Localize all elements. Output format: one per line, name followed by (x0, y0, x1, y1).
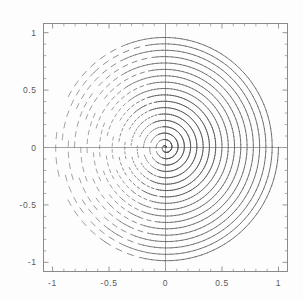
spiral-segment (153, 76, 157, 77)
spiral-segment (153, 70, 157, 71)
spiral-segment (140, 135, 141, 136)
spiral-segment (155, 160, 156, 161)
spiral-segment (272, 153, 273, 159)
spiral-segment (146, 137, 147, 138)
spiral-segment (153, 253, 159, 254)
x-tick-label: 0.5 (215, 278, 229, 288)
x-tick-label: -0.5 (100, 278, 117, 288)
spiral-segment (125, 156, 126, 158)
spiral-segment (175, 215, 179, 216)
spiral-segment (155, 247, 161, 248)
figure-background (0, 0, 303, 301)
spiral-segment (153, 129, 154, 130)
spiral-segment (100, 138, 101, 142)
spiral-segment (132, 157, 133, 159)
spiral-segment (253, 135, 254, 140)
spiral-segment (148, 162, 149, 163)
spiral-segment (152, 174, 153, 175)
spiral-segment (259, 135, 260, 140)
spiral-segment (147, 135, 148, 136)
spiral-segment (156, 202, 159, 203)
spiral-segment (151, 131, 152, 132)
spiral-segment (153, 139, 154, 140)
spiral-segment (272, 134, 273, 140)
spiral-segment (155, 115, 157, 116)
spiral-segment (133, 161, 134, 163)
x-tick-label: 1 (276, 278, 281, 288)
spiral-segment (154, 137, 155, 138)
spiral-segment (175, 209, 178, 210)
spiral-segment (154, 102, 157, 103)
spiral-segment (147, 160, 148, 161)
spiral-segment (153, 167, 154, 168)
spiral-segment (153, 123, 154, 124)
spiral-segment (150, 124, 151, 125)
spiral-segment (152, 63, 157, 64)
y-tick-label: -1 (28, 257, 37, 267)
spiral-segment (151, 44, 157, 45)
spiral-segment (155, 222, 159, 223)
spiral-segment (172, 57, 177, 58)
y-tick-label: 0.5 (23, 85, 37, 95)
spiral-segment (155, 128, 156, 129)
spiral-segment (151, 51, 156, 52)
spiral-segment (155, 168, 156, 169)
spiral-segment (221, 154, 222, 157)
spiral-segment (174, 202, 177, 203)
spiral-segment (113, 137, 114, 140)
spiral-segment (265, 134, 266, 140)
spiral-segment (150, 132, 151, 133)
spiral-segment (151, 165, 152, 166)
spiral-figure: -1-0.500.51 10.50-0.5-1 (0, 0, 303, 301)
spiral-segment (133, 136, 134, 138)
spiral-segment (106, 156, 107, 159)
spiral-segment (246, 154, 247, 159)
spiral-segment (152, 57, 157, 58)
spiral-segment (154, 195, 157, 196)
spiral-segment (152, 157, 153, 158)
spiral-segment (153, 159, 154, 160)
spiral-segment (151, 116, 153, 117)
spiral-segment (119, 157, 120, 160)
spiral-segment (151, 38, 157, 39)
spiral-segment (155, 175, 157, 176)
y-tick-label: -0.5 (19, 200, 36, 210)
spiral-segment (227, 155, 228, 159)
y-tick-label: 0 (31, 143, 36, 153)
plot-canvas: -1-0.500.51 10.50-0.5-1 (0, 0, 303, 301)
spiral-segment (171, 63, 176, 64)
spiral-segment (154, 228, 158, 229)
spiral-segment (221, 135, 222, 138)
y-tick-label: 1 (31, 28, 36, 38)
spiral-segment (172, 83, 176, 84)
spiral-segment (278, 154, 279, 160)
x-tick-label: -1 (48, 278, 57, 288)
spiral-segment (155, 136, 156, 137)
x-tick-label: 0 (163, 278, 168, 288)
spiral-segment (154, 208, 157, 209)
spiral-segment (145, 158, 146, 159)
